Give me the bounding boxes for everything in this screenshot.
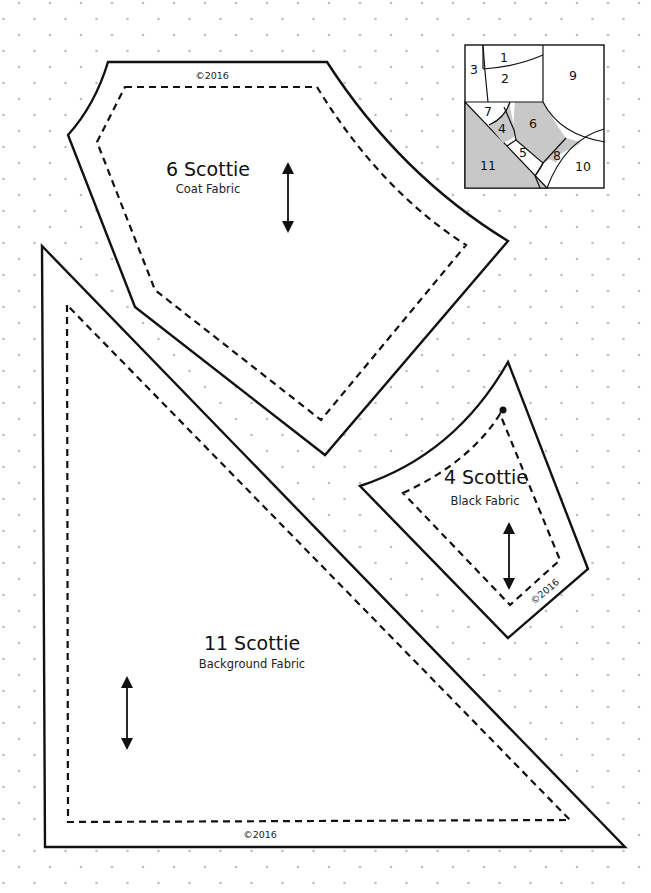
- piece-11-copyright: ©2016: [243, 829, 277, 840]
- block-label-4: 4: [498, 121, 506, 136]
- block-label-8: 8: [553, 148, 561, 163]
- pattern-sheet: 11 Scottie Background Fabric ©2016 ©2016…: [0, 0, 651, 893]
- block-label-5: 5: [519, 145, 527, 160]
- block-label-6: 6: [529, 116, 537, 131]
- matching-point-dot: [500, 407, 507, 414]
- block-label-9: 9: [569, 68, 577, 83]
- block-diagram: 1 2 3 4 5 6 7 8 9 10 11: [465, 45, 605, 188]
- piece-4-subtitle: Black Fabric: [451, 494, 520, 508]
- block-label-7: 7: [484, 104, 492, 119]
- piece-4-title: 4 Scottie: [444, 466, 528, 488]
- piece-6-copyright: ©2016: [195, 70, 229, 81]
- block-label-3: 3: [470, 62, 478, 77]
- block-label-1: 1: [500, 50, 508, 65]
- block-label-11: 11: [480, 158, 496, 173]
- block-label-2: 2: [501, 71, 509, 86]
- piece-11-title: 11 Scottie: [204, 632, 300, 654]
- piece-6-subtitle: Coat Fabric: [176, 182, 240, 196]
- block-label-10: 10: [575, 159, 591, 174]
- piece-11-subtitle: Background Fabric: [199, 657, 305, 671]
- piece-6-title: 6 Scottie: [166, 158, 250, 180]
